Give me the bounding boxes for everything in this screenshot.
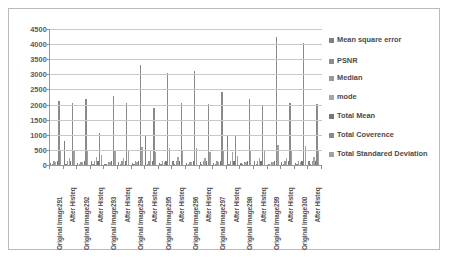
y-axis-tick-label: 4500: [13, 25, 47, 34]
gridline: [50, 135, 322, 136]
x-axis-label-slot: After Histeq: [63, 169, 77, 247]
x-axis-tick-mark: [321, 165, 322, 169]
legend-swatch-icon: [329, 114, 334, 119]
x-axis-label-slot: After Histeq: [226, 169, 240, 247]
x-axis-category-label: After Histeq: [314, 152, 321, 187]
y-axis-tick-label: 3000: [13, 70, 47, 79]
chart-legend: Mean square errorPSNRMedianmodeTotal Mea…: [329, 35, 435, 235]
gridline: [50, 150, 322, 151]
legend-item[interactable]: Mean square error: [329, 35, 435, 45]
bar-group: [254, 29, 268, 165]
y-axis-tick-label: 1500: [13, 115, 47, 124]
gridline: [50, 120, 322, 121]
y-axis-tick-mark: [47, 89, 50, 90]
bar-group: [118, 29, 132, 165]
gridline: [50, 59, 322, 60]
x-axis-label-slot: After Histeq: [117, 169, 131, 247]
x-axis-label-slot: Original Image293: [103, 169, 117, 247]
legend-item[interactable]: PSNR: [329, 56, 435, 66]
gridline: [50, 44, 322, 45]
legend-label: mode: [337, 92, 357, 102]
chart-plot-wrapper: 450040003500300025002000150010005000 Ori…: [9, 9, 439, 249]
legend-item[interactable]: Total Coverence: [329, 130, 435, 140]
legend-label: Total Coverence: [337, 130, 394, 140]
legend-label: Total Mean: [337, 111, 375, 121]
y-axis-tick-mark: [47, 120, 50, 121]
y-axis-tick-mark: [47, 74, 50, 75]
y-axis-tick-labels: 450040003500300025002000150010005000: [13, 29, 47, 165]
bar-group: [172, 29, 186, 165]
x-axis-label-slot: Original Image295: [158, 169, 172, 247]
legend-swatch-icon: [329, 152, 334, 157]
y-axis-tick-mark: [47, 44, 50, 45]
legend-item[interactable]: Median: [329, 73, 435, 83]
y-axis-tick-label: 3500: [13, 55, 47, 64]
bar-group: [281, 29, 295, 165]
x-axis-label-slot: Original Image292: [76, 169, 90, 247]
legend-label: Mean square error: [337, 35, 402, 45]
legend-swatch-icon: [329, 59, 334, 64]
gridline: [50, 105, 322, 106]
x-axis-label-slot: Original Image298: [239, 169, 253, 247]
x-axis-label-slot: Original Image291: [49, 169, 63, 247]
x-axis-label-slot: After Histeq: [199, 169, 213, 247]
x-axis-label-slot: Original Image300: [294, 169, 308, 247]
bar: [64, 141, 65, 165]
y-axis-tick-label: 1000: [13, 130, 47, 139]
x-axis-label-slot: Original Image297: [212, 169, 226, 247]
x-axis-label-slot: After Histeq: [253, 169, 267, 247]
legend-label: Median: [337, 73, 362, 83]
bar-groups: [50, 29, 322, 165]
bar-group: [308, 29, 322, 165]
x-axis-label-slot: After Histeq: [171, 169, 185, 247]
x-axis-label-slot: After Histeq: [90, 169, 104, 247]
y-axis-tick-label: 2000: [13, 100, 47, 109]
gridline: [50, 74, 322, 75]
y-axis-tick-mark: [47, 105, 50, 106]
bar-group: [200, 29, 214, 165]
x-axis-label-slot: Original Image296: [185, 169, 199, 247]
gridline: [50, 89, 322, 90]
x-axis-label-slot: After Histeq: [307, 169, 321, 247]
bar-group: [91, 29, 105, 165]
legend-swatch-icon: [329, 38, 334, 43]
legend-item[interactable]: Total Standared Deviation: [329, 149, 435, 159]
y-axis-tick-mark: [47, 59, 50, 60]
y-axis-tick-label: 0: [13, 161, 47, 170]
legend-item[interactable]: Total Mean: [329, 111, 435, 121]
y-axis-tick-mark: [47, 150, 50, 151]
x-axis-label-slot: After Histeq: [280, 169, 294, 247]
legend-item[interactable]: mode: [329, 92, 435, 102]
bar-group: [145, 29, 159, 165]
x-axis-label-slot: After Histeq: [144, 169, 158, 247]
y-axis-tick-mark: [47, 29, 50, 30]
legend-swatch-icon: [329, 95, 334, 100]
x-axis-category-labels: Original Image291After HisteqOriginal Im…: [49, 169, 321, 247]
gridline: [50, 29, 322, 30]
y-axis-tick-mark: [47, 135, 50, 136]
bar-group: [227, 29, 241, 165]
y-axis-tick-label: 2500: [13, 85, 47, 94]
bar-group: [64, 29, 78, 165]
legend-label: PSNR: [337, 56, 358, 66]
chart-frame: 450040003500300025002000150010005000 Ori…: [8, 8, 440, 250]
legend-swatch-icon: [329, 133, 334, 138]
x-axis-label-slot: Original Image294: [131, 169, 145, 247]
y-axis-tick-label: 4000: [13, 40, 47, 49]
x-axis-label-slot: Original Image299: [267, 169, 281, 247]
y-axis-tick-label: 500: [13, 145, 47, 154]
legend-swatch-icon: [329, 76, 334, 81]
legend-label: Total Standared Deviation: [337, 149, 428, 159]
